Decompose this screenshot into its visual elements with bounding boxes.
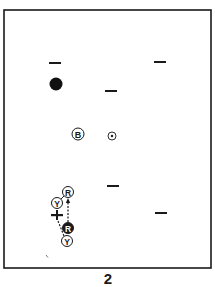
stray-mark	[46, 255, 48, 258]
ball-r-dark: R	[63, 223, 74, 234]
ball-b-label: B	[75, 130, 82, 140]
table-frame	[4, 10, 211, 268]
ball-y-top: Y	[52, 198, 63, 209]
svg-text:R: R	[65, 224, 71, 234]
path-y-r	[61, 196, 64, 199]
table-diagram: B R Y R Y 2	[0, 0, 215, 287]
dash-marker	[107, 185, 119, 187]
svg-text:Y: Y	[64, 237, 70, 247]
dash-marker	[49, 62, 61, 64]
cross-marker	[51, 210, 63, 220]
dash-marker	[154, 61, 166, 63]
black-ball	[50, 78, 63, 91]
ball-y-bottom: Y	[62, 236, 73, 247]
dash-marker	[155, 212, 167, 214]
svg-text:Y: Y	[54, 199, 60, 209]
dash-marker	[105, 90, 117, 92]
svg-text:R: R	[65, 188, 71, 198]
spot-ball	[108, 132, 116, 140]
figure-number: 2	[104, 270, 112, 287]
arrow-head-icon	[66, 198, 70, 203]
ball-r-top: R	[63, 187, 74, 198]
ball-b: B	[72, 128, 84, 140]
